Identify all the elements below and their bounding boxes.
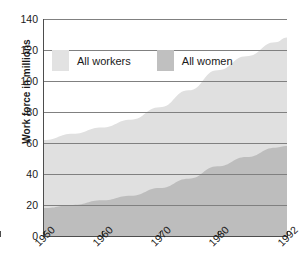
y-axis-tick-labels: 140 120 100 80 60 40 20 0 [12, 0, 38, 271]
y-axis-line [43, 19, 44, 237]
y-tick-label-100: 100 [12, 76, 38, 87]
y-tick-label-60: 60 [12, 138, 38, 149]
y-tick-label-140: 140 [12, 14, 38, 25]
work-force-area-chart: Work force in millions 140 120 100 80 60… [0, 0, 306, 271]
y-tick-label-80: 80 [12, 107, 38, 118]
y-tick-label-40: 40 [12, 169, 38, 180]
legend-entry-all-workers: All workers [52, 50, 131, 71]
legend-swatch-icon-all-workers [52, 50, 69, 71]
y-tick-label-120: 120 [12, 45, 38, 56]
legend-label-all-workers: All workers [77, 55, 131, 67]
legend-entry-all-women: All women [157, 50, 233, 71]
y-tick-label-20: 20 [12, 200, 38, 211]
chart-legend: All workers All women [52, 50, 233, 71]
legend-label-all-women: All women [182, 55, 233, 67]
legend-swatch-icon-all-women [157, 50, 174, 71]
x-tick-spacer [0, 231, 1, 237]
